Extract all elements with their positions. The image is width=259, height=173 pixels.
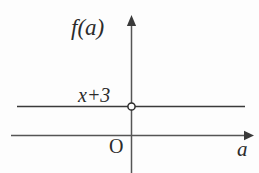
origin-label: O xyxy=(109,136,123,156)
y-axis-arrowhead-icon xyxy=(127,15,136,26)
plot-canvas xyxy=(0,0,259,173)
math-figure-constant-function: f(a) x+3 O a xyxy=(0,0,259,173)
y-axis-label: f(a) xyxy=(71,16,104,39)
x-axis-label: a xyxy=(237,139,248,160)
open-circle-marker-icon xyxy=(128,103,135,110)
function-value-label: x+3 xyxy=(78,85,110,105)
